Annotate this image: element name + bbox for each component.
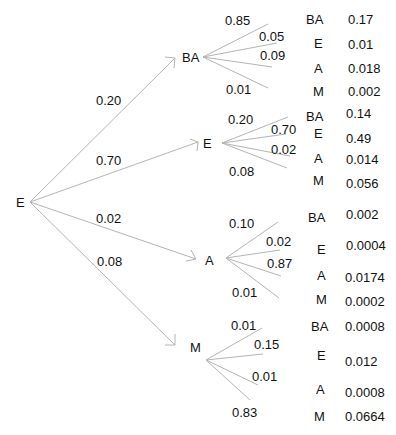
outcome-m-a-label: A bbox=[316, 383, 325, 396]
prob-ba-m: 0.01 bbox=[226, 83, 251, 96]
prob-root-e: 0.70 bbox=[96, 154, 121, 167]
outcome-m-m-label: M bbox=[314, 410, 325, 423]
outcome-a-a-label: A bbox=[317, 269, 326, 282]
node-e: E bbox=[203, 137, 212, 150]
outcome-ba-m-joint: 0.002 bbox=[348, 85, 381, 98]
prob-root-a: 0.02 bbox=[96, 212, 121, 225]
prob-a-m: 0.01 bbox=[232, 286, 257, 299]
prob-root-ba: 0.20 bbox=[96, 94, 121, 107]
outcome-e-ba-label: BA bbox=[306, 110, 323, 123]
outcome-a-ba-label: BA bbox=[308, 211, 325, 224]
outcome-ba-e-joint: 0.01 bbox=[348, 38, 373, 51]
prob-e-e: 0.70 bbox=[271, 123, 296, 136]
prob-m-a: 0.01 bbox=[252, 370, 277, 383]
edge-m-a bbox=[206, 360, 258, 385]
outcome-m-ba-joint: 0.0008 bbox=[345, 320, 385, 333]
outcome-a-e-label: E bbox=[317, 243, 326, 256]
outcome-ba-ba-joint: 0.17 bbox=[348, 13, 373, 26]
outcome-e-a-joint: 0.014 bbox=[346, 153, 379, 166]
edge-root-ba bbox=[30, 58, 175, 202]
outcome-a-m-joint: 0.0002 bbox=[345, 295, 385, 308]
node-ba: BA bbox=[182, 51, 199, 64]
node-a: A bbox=[205, 254, 214, 267]
outcome-ba-a-label: A bbox=[314, 62, 323, 75]
arrowhead-icon bbox=[186, 250, 196, 261]
edge-m-m bbox=[206, 360, 250, 400]
outcome-a-e-joint: 0.0004 bbox=[346, 239, 386, 252]
prob-a-e: 0.02 bbox=[266, 235, 291, 248]
outcome-m-e-label: E bbox=[317, 349, 326, 362]
outcome-a-a-joint: 0.0174 bbox=[345, 271, 385, 284]
outcome-m-ba-label: BA bbox=[311, 320, 328, 333]
prob-m-m: 0.83 bbox=[232, 406, 257, 419]
outcome-e-m-label: M bbox=[313, 174, 324, 187]
prob-e-a: 0.02 bbox=[271, 143, 296, 156]
outcome-e-ba-joint: 0.14 bbox=[346, 107, 371, 120]
outcome-ba-ba-label: BA bbox=[306, 13, 323, 26]
prob-e-m: 0.08 bbox=[229, 165, 254, 178]
prob-root-m: 0.08 bbox=[97, 255, 122, 268]
root-node: E bbox=[16, 196, 25, 209]
outcome-e-e-joint: 0.49 bbox=[346, 132, 371, 145]
outcome-e-e-label: E bbox=[314, 127, 323, 140]
arrowhead-icon bbox=[190, 139, 198, 151]
node-m: M bbox=[190, 341, 201, 354]
prob-ba-a: 0.09 bbox=[260, 49, 285, 62]
outcome-m-m-joint: 0.0664 bbox=[345, 410, 385, 423]
outcome-ba-m-label: M bbox=[313, 85, 324, 98]
prob-e-ba: 0.20 bbox=[228, 113, 253, 126]
prob-a-a: 0.87 bbox=[267, 257, 292, 270]
outcome-m-e-joint: 0.012 bbox=[345, 355, 378, 368]
tree-edges bbox=[0, 0, 396, 435]
prob-a-ba: 0.10 bbox=[229, 217, 254, 230]
outcome-a-m-label: M bbox=[316, 293, 327, 306]
outcome-e-m-joint: 0.056 bbox=[346, 177, 379, 190]
outcome-ba-e-label: E bbox=[314, 37, 323, 50]
prob-m-e: 0.15 bbox=[254, 338, 279, 351]
edge-root-e bbox=[30, 142, 198, 202]
prob-ba-ba: 0.85 bbox=[225, 14, 250, 27]
outcome-m-a-joint: 0.0008 bbox=[345, 386, 385, 399]
outcome-ba-a-joint: 0.018 bbox=[348, 62, 381, 75]
outcome-e-a-label: A bbox=[314, 152, 323, 165]
prob-ba-e: 0.05 bbox=[259, 30, 284, 43]
outcome-a-ba-joint: 0.002 bbox=[346, 208, 379, 221]
prob-m-ba: 0.01 bbox=[231, 319, 256, 332]
